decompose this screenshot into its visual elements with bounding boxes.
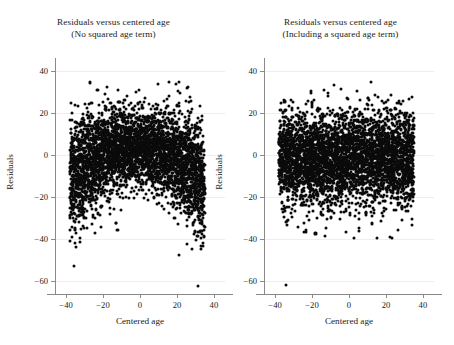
x-tick-label: −40 <box>59 300 72 310</box>
scatter-point <box>73 221 76 224</box>
y-tick-mark <box>260 197 264 198</box>
scatter-point <box>203 212 206 215</box>
gridline <box>55 281 225 282</box>
scatter-point <box>379 116 382 119</box>
scatter-point <box>350 189 353 192</box>
y-tick-label: −40 <box>35 234 48 244</box>
scatter-point <box>175 83 178 86</box>
scatter-point <box>281 210 284 213</box>
scatter-point <box>104 92 107 95</box>
scatter-point <box>359 99 362 102</box>
scatter-point <box>130 101 133 104</box>
scatter-point <box>376 95 379 98</box>
y-tick-label: 40 <box>39 66 48 76</box>
y-tick-label: −40 <box>244 234 257 244</box>
scatter-point <box>394 107 397 110</box>
scatter-point <box>306 214 309 217</box>
scatter-point <box>341 193 344 196</box>
scatter-point <box>279 192 282 195</box>
scatter-point <box>322 88 325 91</box>
scatter-point <box>93 232 96 235</box>
scatter-point <box>332 109 335 112</box>
scatter-point <box>314 232 317 235</box>
scatter-point <box>201 219 204 222</box>
scatter-point <box>173 115 176 118</box>
scatter-point <box>126 94 129 97</box>
scatter-point <box>373 211 376 214</box>
scatter-point <box>201 134 204 137</box>
x-tick-mark <box>312 294 313 298</box>
x-tick-label: 20 <box>173 300 182 310</box>
scatter-point <box>161 176 164 179</box>
scatter-point <box>136 102 139 105</box>
scatter-point <box>326 217 329 220</box>
panel-title-line2: (Including a squared age term) <box>227 28 454 40</box>
scatter-point <box>168 80 171 83</box>
residual-plot-figure: Residuals versus centered age (No square… <box>0 0 454 345</box>
scatter-point <box>186 87 189 90</box>
scatter-point <box>355 89 358 92</box>
scatter-point <box>190 247 193 250</box>
scatter-point <box>179 207 182 210</box>
scatter-point <box>280 101 283 104</box>
scatter-point <box>290 109 293 112</box>
scatter-point <box>324 115 327 118</box>
scatter-point <box>74 227 77 230</box>
x-axis-label-left: Centered age <box>55 316 225 326</box>
scatter-point <box>329 113 332 116</box>
scatter-point <box>194 238 197 241</box>
scatter-point <box>411 200 414 203</box>
scatter-canvas-right <box>264 58 434 294</box>
scatter-point <box>186 121 189 124</box>
scatter-point <box>283 120 286 123</box>
y-tick-label: 20 <box>248 108 257 118</box>
scatter-point <box>178 253 181 256</box>
scatter-point <box>332 84 335 87</box>
panel-title-right: Residuals versus centered age (Including… <box>227 16 454 41</box>
y-tick-mark <box>260 239 264 240</box>
scatter-point <box>163 207 166 210</box>
scatter-point <box>163 113 166 116</box>
scatter-point <box>142 106 145 109</box>
scatter-point <box>357 217 360 220</box>
x-tick-label: 40 <box>419 300 428 310</box>
scatter-point <box>308 211 311 214</box>
y-tick-label: −20 <box>244 192 257 202</box>
scatter-point <box>69 228 72 231</box>
scatter-point <box>342 210 345 213</box>
scatter-point <box>133 108 136 111</box>
scatter-point <box>315 217 318 220</box>
scatter-point <box>116 229 119 232</box>
scatter-point <box>128 178 131 181</box>
panel-no-squared-term: Residuals versus centered age (No square… <box>0 0 227 345</box>
scatter-point <box>69 102 72 105</box>
scatter-point <box>185 224 188 227</box>
scatter-point <box>144 192 147 195</box>
scatter-point <box>327 94 330 97</box>
scatter-point <box>407 97 410 100</box>
scatter-point <box>120 191 123 194</box>
scatter-point <box>345 231 348 234</box>
scatter-point <box>87 103 90 106</box>
scatter-point <box>290 119 293 122</box>
scatter-point <box>286 223 289 226</box>
scatter-point <box>94 202 97 205</box>
scatter-point <box>73 241 76 244</box>
scatter-point <box>339 88 342 91</box>
scatter-point <box>148 102 151 105</box>
scatter-point <box>125 180 128 183</box>
scatter-point <box>379 219 382 222</box>
scatter-point <box>330 216 333 219</box>
scatter-point <box>355 196 358 199</box>
scatter-point <box>293 210 296 213</box>
scatter-point <box>394 208 397 211</box>
scatter-point <box>196 285 199 288</box>
x-tick-label: 0 <box>138 300 142 310</box>
x-tick-mark <box>386 294 387 298</box>
scatter-point <box>125 107 128 110</box>
x-tick-mark <box>423 294 424 298</box>
scatter-point <box>371 103 374 106</box>
scatter-point <box>89 81 92 84</box>
scatter-point <box>85 217 88 220</box>
scatter-point <box>91 116 94 119</box>
